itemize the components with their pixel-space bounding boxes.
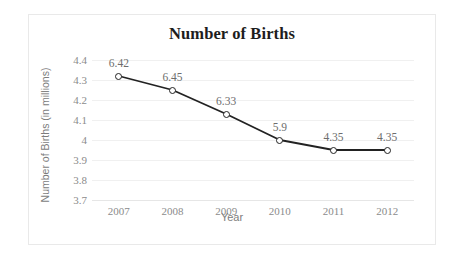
x-axis-title: Year [29, 211, 435, 223]
y-axis-tick-label: 4.3 [73, 74, 87, 86]
data-point-label: 5.9 [273, 121, 287, 133]
y-axis-title-text: Number of Births (in millions) [39, 68, 51, 203]
data-point-label: 4.35 [377, 131, 397, 143]
y-axis-tick-label: 4 [82, 134, 88, 146]
gridline [92, 200, 414, 201]
y-axis-tick-label: 3.9 [73, 154, 87, 166]
y-axis-tick-label: 4.2 [73, 94, 87, 106]
y-axis-tick-label: 3.8 [73, 174, 87, 186]
data-point-marker[interactable] [330, 147, 337, 154]
data-point-marker[interactable] [223, 111, 230, 118]
line-series [92, 60, 414, 200]
y-axis-tick-label: 3.7 [73, 194, 87, 206]
data-point-marker[interactable] [384, 147, 391, 154]
plot-area: 4.44.34.24.143.93.83.7 20072008200920102… [92, 60, 414, 200]
data-point-label: 4.35 [323, 131, 343, 143]
data-point-marker[interactable] [169, 87, 176, 94]
y-axis-title: Number of Births (in millions) [38, 61, 52, 209]
y-axis-tick-label: 4.4 [73, 54, 87, 66]
chart-title: Number of Births [29, 24, 435, 44]
data-point-marker[interactable] [115, 73, 122, 80]
data-point-label: 6.33 [216, 95, 236, 107]
y-axis-tick-label: 4.1 [73, 114, 87, 126]
data-point-label: 6.42 [109, 57, 129, 69]
data-point-marker[interactable] [276, 137, 283, 144]
data-point-label: 6.45 [162, 71, 182, 83]
chart-card: Number of Births Number of Births (in mi… [28, 14, 436, 245]
